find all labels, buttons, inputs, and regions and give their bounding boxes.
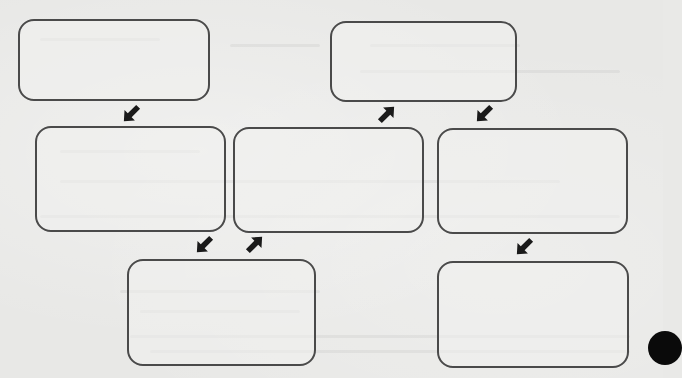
- flowchart-box-1[interactable]: [18, 19, 210, 101]
- flowchart-box-6[interactable]: [127, 259, 316, 366]
- flowchart-box-3[interactable]: [233, 127, 424, 233]
- flowchart-box-5[interactable]: [437, 128, 628, 234]
- arrow-down-right-icon: [120, 103, 142, 125]
- arrow-up-right-icon: [244, 233, 266, 255]
- arrow-down-right-icon: [473, 103, 495, 125]
- page-marker-dot: [648, 331, 682, 365]
- flowchart-box-4[interactable]: [330, 21, 517, 102]
- flowchart-box-7[interactable]: [437, 261, 629, 368]
- flowchart-box-2[interactable]: [35, 126, 226, 232]
- arrow-down-right-icon: [193, 234, 215, 256]
- arrow-up-right-icon: [376, 103, 398, 125]
- bleed-through-line: [230, 44, 320, 47]
- arrow-down-right-icon: [513, 236, 535, 258]
